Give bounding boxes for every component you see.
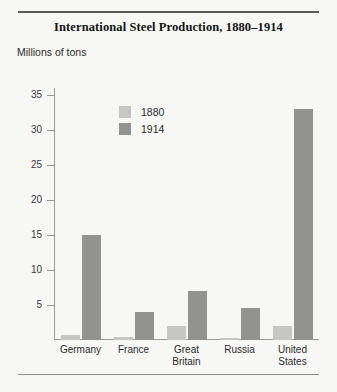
bar-group bbox=[220, 88, 260, 340]
y-axis-tick-label: 20 bbox=[18, 194, 42, 205]
bar-germany-1880 bbox=[61, 335, 80, 340]
y-axis-tick-label: 10 bbox=[18, 264, 42, 275]
chart-legend: 18801914 bbox=[119, 103, 164, 137]
bar-france-1914 bbox=[135, 312, 154, 340]
bar-group bbox=[61, 88, 101, 340]
y-axis-tick-label-wrap: 30 bbox=[18, 130, 42, 131]
bar-group bbox=[273, 88, 313, 340]
x-axis-label-france: France bbox=[107, 344, 160, 356]
bar-united-states-1914 bbox=[294, 109, 313, 340]
y-axis-tick-label: 30 bbox=[18, 124, 42, 135]
y-axis-tick-label-wrap: 20 bbox=[18, 200, 42, 201]
y-axis-tick-label: 25 bbox=[18, 159, 42, 170]
y-axis-tick-label-wrap: 25 bbox=[18, 165, 42, 166]
legend-label: 1914 bbox=[141, 123, 164, 135]
y-axis-tick bbox=[47, 305, 54, 306]
x-axis-label-line: France bbox=[107, 344, 160, 356]
top-divider-rule bbox=[18, 11, 319, 13]
y-axis-unit-label: Millions of tons bbox=[17, 46, 86, 58]
bar-great-britain-1880 bbox=[167, 326, 186, 340]
legend-label: 1880 bbox=[141, 106, 164, 118]
legend-swatch-icon bbox=[119, 106, 131, 118]
y-axis-tick bbox=[47, 95, 54, 96]
plot-area bbox=[54, 88, 319, 340]
legend-item-1880: 1880 bbox=[119, 103, 164, 120]
y-axis-tick-label-wrap: 5 bbox=[18, 305, 42, 306]
y-axis-tick bbox=[47, 235, 54, 236]
page-title: International Steel Production, 1880–191… bbox=[0, 20, 337, 35]
bar-france-1880 bbox=[114, 337, 133, 340]
legend-item-1914: 1914 bbox=[119, 120, 164, 137]
x-axis-label-united: UnitedStates bbox=[266, 344, 319, 367]
x-axis-label-line: Russia bbox=[213, 344, 266, 356]
y-axis-tick bbox=[47, 270, 54, 271]
x-axis-label-great: GreatBritain bbox=[160, 344, 213, 367]
chart-figure: International Steel Production, 1880–191… bbox=[0, 0, 337, 392]
y-axis-tick bbox=[47, 165, 54, 166]
y-axis-tick-label: 35 bbox=[18, 89, 42, 100]
x-axis-label-germany: Germany bbox=[54, 344, 107, 356]
legend-swatch-icon bbox=[119, 123, 131, 135]
y-axis-tick-label: 5 bbox=[18, 299, 42, 310]
bottom-divider-rule bbox=[18, 374, 319, 375]
x-axis-label-russia: Russia bbox=[213, 344, 266, 356]
y-axis-tick-label: 15 bbox=[18, 229, 42, 240]
x-axis-label-line: Great bbox=[160, 344, 213, 356]
bar-russia-1880 bbox=[220, 338, 239, 340]
bar-group bbox=[167, 88, 207, 340]
x-axis-label-line: States bbox=[266, 356, 319, 368]
y-axis-tick bbox=[47, 130, 54, 131]
y-axis-tick-label-wrap: 10 bbox=[18, 270, 42, 271]
bar-united-states-1880 bbox=[273, 326, 292, 340]
y-axis-tick-label-wrap: 35 bbox=[18, 95, 42, 96]
x-axis-label-line: Britain bbox=[160, 356, 213, 368]
y-axis-tick-label-wrap: 15 bbox=[18, 235, 42, 236]
y-axis-tick bbox=[47, 200, 54, 201]
x-axis-label-line: United bbox=[266, 344, 319, 356]
x-axis-label-line: Germany bbox=[54, 344, 107, 356]
bar-germany-1914 bbox=[82, 235, 101, 340]
bar-great-britain-1914 bbox=[188, 291, 207, 340]
bar-russia-1914 bbox=[241, 308, 260, 340]
